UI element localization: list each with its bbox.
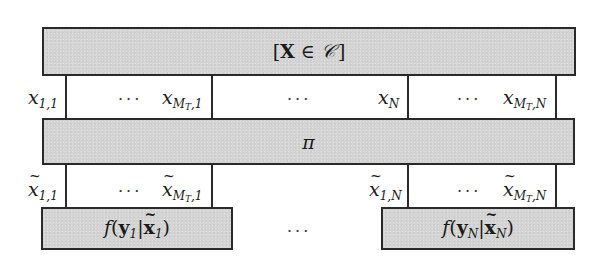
connector-line bbox=[407, 75, 409, 119]
likelihood-box-N: f(yN|xN) bbox=[381, 207, 575, 250]
ellipsis: ··· bbox=[118, 92, 142, 108]
likelihood-label-N: f(yN|xN) bbox=[442, 218, 514, 240]
ellipsis: ··· bbox=[457, 184, 481, 200]
constraint-box: [X ∈ 𝒞] bbox=[42, 27, 576, 76]
input-label-xMT1: xMT,1 bbox=[162, 88, 202, 112]
ellipsis: ··· bbox=[287, 92, 311, 108]
permutation-label: π bbox=[302, 131, 315, 153]
output-label-xMT1: xMT,1 bbox=[162, 180, 202, 204]
output-label-x11: x1,1 bbox=[28, 180, 58, 202]
likelihood-box-1: f(y1|x1) bbox=[41, 207, 233, 250]
connector-line bbox=[211, 164, 213, 208]
ellipsis: ··· bbox=[287, 224, 311, 240]
likelihood-label-1: f(y1|x1) bbox=[104, 218, 170, 240]
connector-line bbox=[555, 75, 557, 119]
connector-line bbox=[65, 164, 67, 208]
output-label-x1N: x1,N bbox=[369, 180, 402, 202]
permutation-box: π bbox=[42, 118, 575, 165]
output-label-xMTN: xMT,N bbox=[503, 180, 546, 204]
ellipsis: ··· bbox=[118, 184, 142, 200]
connector-line bbox=[65, 75, 67, 119]
input-label-x11: x1,1 bbox=[28, 88, 58, 110]
connector-line bbox=[407, 164, 409, 208]
input-label-xN: xN bbox=[378, 88, 399, 110]
ellipsis: ··· bbox=[457, 92, 481, 108]
connector-line bbox=[211, 75, 213, 119]
input-label-xMTN: xMT,N bbox=[503, 88, 546, 112]
connector-line bbox=[555, 164, 557, 208]
constraint-label: [X ∈ 𝒞] bbox=[273, 40, 346, 63]
